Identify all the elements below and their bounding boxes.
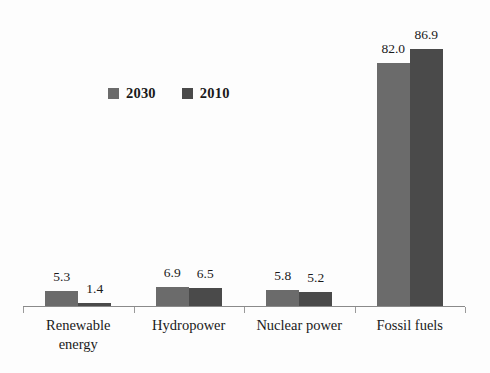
data-label-2010-hydropower: 6.5 — [182, 267, 228, 281]
bar-2010-nuclear-power[interactable] — [299, 292, 332, 307]
bar-2030-nuclear-power[interactable] — [266, 290, 299, 307]
data-label-2030-fossil-fuels: 82.0 — [370, 42, 416, 56]
x-axis-tick — [134, 307, 135, 313]
category-label-line: Fossil fuels — [345, 316, 475, 335]
x-axis-tick — [23, 307, 24, 313]
x-axis-tick — [244, 307, 245, 313]
bar-group-bars — [134, 10, 245, 307]
bar-2010-hydropower[interactable] — [189, 288, 222, 307]
bar-group — [134, 10, 245, 307]
category-label-line: energy — [13, 335, 143, 354]
x-axis-tick — [465, 307, 466, 313]
bar-2030-hydropower[interactable] — [156, 287, 189, 307]
x-axis-tick — [355, 307, 356, 313]
bar-chart: 2030 2010 RenewableenergyHydropowerNucle… — [0, 0, 490, 373]
data-label-2010-renewable-energy: 1.4 — [72, 282, 118, 296]
bar-group-bars — [244, 10, 355, 307]
bar-2030-fossil-fuels[interactable] — [377, 63, 410, 307]
bar-group — [244, 10, 355, 307]
category-label-fossil-fuels: Fossil fuels — [345, 316, 475, 335]
bar-group-bars — [23, 10, 134, 307]
bar-group — [23, 10, 134, 307]
data-label-2010-nuclear-power: 5.2 — [293, 271, 339, 285]
bar-2010-fossil-fuels[interactable] — [410, 49, 443, 307]
data-label-2010-fossil-fuels: 86.9 — [403, 28, 449, 42]
